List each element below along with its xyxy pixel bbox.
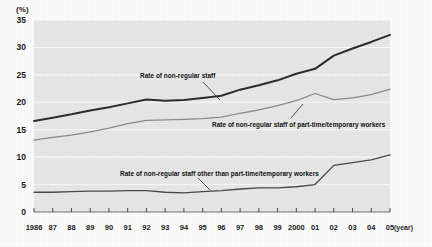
y-tick-10: 10 bbox=[4, 152, 26, 162]
x-tick-92: 92 bbox=[142, 223, 150, 232]
x-tick-89: 89 bbox=[86, 223, 94, 232]
x-tick-97: 97 bbox=[236, 223, 244, 232]
y-axis-unit-label: (%) bbox=[16, 5, 29, 14]
x-tick-90: 90 bbox=[105, 223, 113, 232]
x-tick-93: 93 bbox=[161, 223, 169, 232]
x-tick-94: 94 bbox=[180, 223, 188, 232]
x-tick-03: 03 bbox=[348, 223, 356, 232]
y-tick-5: 5 bbox=[4, 180, 26, 190]
chart-figure: (%) 05101520253035 198687888990919293949… bbox=[0, 0, 432, 247]
x-tick-01: 01 bbox=[311, 223, 319, 232]
x-tick-88: 88 bbox=[67, 223, 75, 232]
annotation-series3: Rate of non-regular staff other than par… bbox=[120, 170, 319, 177]
annotation-series1: Rate of non-regular staff bbox=[140, 72, 215, 79]
x-tick-95: 95 bbox=[198, 223, 206, 232]
y-tick-20: 20 bbox=[4, 97, 26, 107]
x-tick-02: 02 bbox=[330, 223, 338, 232]
x-tick-96: 96 bbox=[217, 223, 225, 232]
x-tick-05: 05 bbox=[386, 223, 394, 232]
x-tick-91: 91 bbox=[124, 223, 132, 232]
y-tick-15: 15 bbox=[4, 125, 26, 135]
y-tick-30: 30 bbox=[4, 42, 26, 52]
x-axis-unit-label: (year) bbox=[394, 224, 413, 231]
annotation-series2: Rate of non-regular staff of part-time/t… bbox=[212, 121, 385, 128]
x-tick-99: 99 bbox=[273, 223, 281, 232]
y-tick-35: 35 bbox=[4, 15, 26, 25]
y-tick-0: 0 bbox=[4, 207, 26, 217]
x-tick-1986: 1986 bbox=[26, 223, 43, 232]
x-tick-87: 87 bbox=[49, 223, 57, 232]
x-tick-2000: 2000 bbox=[288, 223, 305, 232]
y-tick-25: 25 bbox=[4, 70, 26, 80]
x-tick-04: 04 bbox=[367, 223, 375, 232]
x-tick-98: 98 bbox=[255, 223, 263, 232]
